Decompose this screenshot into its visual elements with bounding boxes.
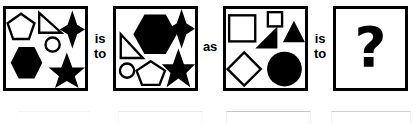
relation-as-label: as <box>203 39 217 54</box>
relation-is-to-first: is to <box>89 25 111 67</box>
analogy-panel-a[interactable] <box>3 6 88 91</box>
hexagon-shape <box>133 15 176 55</box>
relation-is-to-first-line2: to <box>94 46 106 61</box>
pentagon-shape <box>8 14 35 39</box>
panel-a-shapes <box>6 9 85 88</box>
circle-shape <box>120 64 134 78</box>
five-pointed-star-shape <box>162 49 195 88</box>
question-mark-placeholder: ? <box>336 9 405 88</box>
analogy-panel-b[interactable] <box>113 6 198 91</box>
small-square-shape <box>268 12 282 26</box>
triangle-shape <box>283 21 305 42</box>
relation-is-to-second: is to <box>309 25 331 67</box>
relation-is-to-second-line2: to <box>314 46 326 61</box>
cropped-answer-box-2[interactable] <box>118 111 203 124</box>
pentagon-shape <box>137 61 165 85</box>
analogy-panel-c[interactable] <box>223 6 308 91</box>
four-pointed-star-shape <box>60 11 85 49</box>
right-triangle-shape <box>39 13 61 33</box>
right-triangle-shape-fill <box>255 26 277 48</box>
relation-as: as <box>199 36 221 58</box>
visual-analogy-puzzle: is to as <box>0 0 417 124</box>
cropped-answer-box-3[interactable] <box>226 111 311 124</box>
cropped-answer-row <box>0 110 417 124</box>
cropped-answer-box-1[interactable] <box>18 111 90 124</box>
circle-shape <box>267 52 302 87</box>
relation-is-to-second-line1: is <box>315 31 325 46</box>
square-shape <box>229 15 255 41</box>
hexagon-shape <box>11 47 43 79</box>
relation-is-to-first-line1: is <box>95 31 105 46</box>
analogy-panel-answer[interactable]: ? <box>333 6 408 91</box>
diamond-shape <box>228 52 261 85</box>
cropped-answer-box-4[interactable] <box>331 111 411 124</box>
panel-c-shapes <box>226 9 305 88</box>
panel-b-shapes <box>116 9 195 88</box>
circle-shape <box>46 37 60 51</box>
five-pointed-star-shape <box>49 52 85 88</box>
